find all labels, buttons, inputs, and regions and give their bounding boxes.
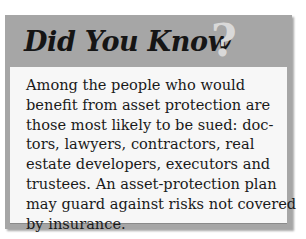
callout-body-panel: Among the people who would benefit from …: [10, 67, 287, 224]
body-line: may guard against risks not covered: [26, 194, 288, 214]
callout-header: Did You Know ?: [5, 15, 292, 68]
body-line: those most likely to be sued: doc-: [26, 115, 288, 135]
body-line: Among the people who would: [26, 75, 288, 95]
question-mark-icon: ?: [211, 16, 237, 66]
callout-title: Did You Know: [24, 26, 231, 58]
callout-body-text: Among the people who would benefit from …: [26, 75, 288, 233]
body-line: tors, lawyers, contractors, real: [26, 134, 288, 154]
page: Did You Know ? Among the people who woul…: [0, 0, 306, 239]
body-line: trustees. An asset-protection plan: [26, 174, 288, 194]
did-you-know-callout: Did You Know ? Among the people who woul…: [5, 15, 292, 229]
body-line: benefit from asset protection are: [26, 95, 288, 115]
body-line: estate developers, executors and: [26, 154, 288, 174]
body-line: by insurance.: [26, 214, 288, 234]
